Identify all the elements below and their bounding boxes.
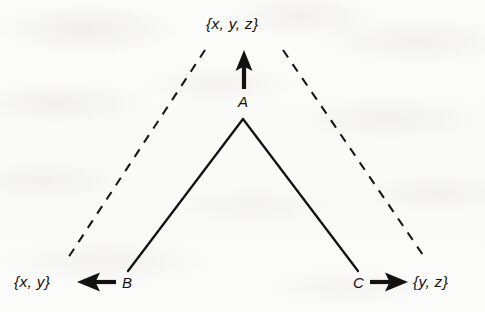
solid-edge-a-c [243, 119, 358, 271]
set-label-left: {x, y} [14, 274, 50, 290]
arrow-a-to-top [236, 50, 253, 89]
arrow-c-to-right [370, 273, 408, 292]
node-label-b: B [122, 275, 132, 290]
diagram-graphics [0, 0, 485, 312]
set-label-top: {x, y, z} [206, 16, 258, 32]
arrow-b-to-left [77, 273, 116, 292]
dashed-edge-cone-right [283, 50, 425, 258]
figure-canvas: {x, y, z} {x, y} {y, z} A B C [0, 0, 485, 312]
node-label-a: A [238, 94, 248, 109]
node-label-c: C [353, 275, 364, 290]
dashed-edge-cone-left [68, 50, 205, 258]
set-label-right: {y, z} [413, 274, 448, 290]
